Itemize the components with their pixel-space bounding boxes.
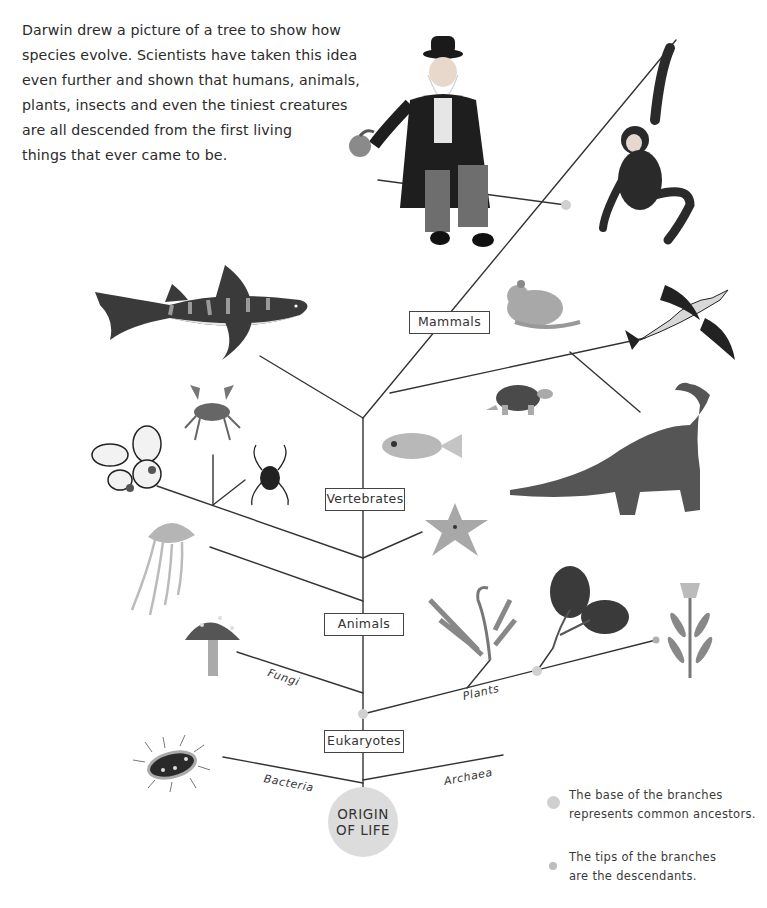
mouse-illustration: [507, 280, 580, 327]
bacterium-illustration: [133, 735, 210, 792]
origin-line-2: OF LIFE: [336, 822, 390, 838]
fern-illustration: [430, 588, 515, 661]
jellyfish-illustration: [132, 523, 195, 615]
branch-primates: [363, 40, 676, 418]
fish-illustration: [382, 433, 462, 459]
darwin-illustration: [349, 36, 494, 247]
ancestor-dot: [561, 200, 571, 210]
ancestor-dot: [532, 666, 542, 676]
mushroom-illustration: [185, 616, 240, 676]
branch-plants: [363, 640, 656, 714]
flower-illustration: [665, 583, 715, 678]
turtle-illustration: [486, 385, 553, 415]
shark-illustration: [95, 265, 308, 360]
legend-base-line-1: The base of the branches: [569, 786, 756, 805]
starfish-illustration: [425, 503, 488, 556]
branch-starfish: [363, 532, 422, 558]
ancestor-dot-legend-icon: [547, 796, 560, 809]
crab-illustration: [185, 385, 240, 440]
node-label-eukaryotes: Eukaryotes: [324, 730, 404, 753]
tip-dot: [653, 637, 660, 644]
node-label-vertebrates: Vertebrates: [325, 488, 405, 511]
branch-shark: [260, 356, 363, 418]
oak-leaves-illustration: [550, 566, 629, 648]
branch-reptiles-birds: [390, 338, 645, 393]
bird-illustration: [625, 285, 735, 360]
legend-base-line-2: represents common ancestors.: [569, 805, 756, 824]
legend-tips: The tips of the branches are the descend…: [569, 848, 716, 886]
dinosaur-illustration: [510, 383, 710, 515]
origin-of-life-node: ORIGIN OF LIFE: [328, 787, 398, 857]
spider-illustration: [252, 445, 289, 505]
node-label-animals: Animals: [324, 613, 404, 636]
origin-line-1: ORIGIN: [337, 806, 389, 822]
branch-spider: [213, 480, 245, 505]
branch-jellyfish: [210, 547, 363, 601]
node-label-mammals: Mammals: [409, 311, 490, 334]
legend-tips-line-1: The tips of the branches: [569, 848, 716, 867]
tip-dot-legend-icon: [549, 862, 557, 870]
tree-of-life-diagram: [0, 0, 767, 908]
legend-base: The base of the branches represents comm…: [569, 786, 756, 824]
branch-fungi: [237, 652, 363, 693]
legend-tips-line-2: are the descendants.: [569, 867, 716, 886]
butterfly-illustration: [92, 426, 161, 492]
monkey-illustration: [603, 48, 690, 240]
ancestor-dot: [358, 709, 368, 719]
branch-dinosaur: [570, 352, 640, 412]
